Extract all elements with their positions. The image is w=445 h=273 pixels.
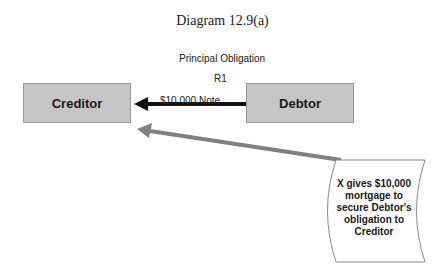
mortgage-arrow xyxy=(137,123,341,160)
mortgage-line: secure Debtor's xyxy=(333,202,415,214)
mortgage-line: Creditor xyxy=(333,226,415,238)
mortgage-line: obligation to xyxy=(333,214,415,226)
note-label: $10,000 Note xyxy=(160,95,220,106)
mortgage-line: X gives $10,000 xyxy=(333,178,415,190)
mortgage-description: X gives $10,000 mortgage to secure Debto… xyxy=(333,178,415,238)
mortgage-line: mortgage to xyxy=(333,190,415,202)
